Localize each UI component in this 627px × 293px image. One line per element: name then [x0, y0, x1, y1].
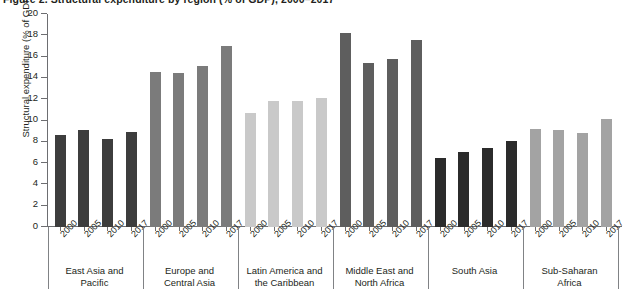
y-axis-tick-label: 4: [33, 177, 38, 189]
y-axis-tick-label: 6: [33, 156, 38, 168]
bar: [482, 148, 493, 227]
plot-area: 02468101214161820: [47, 14, 622, 227]
y-axis-tick: 10: [41, 120, 47, 121]
y-axis-line: [47, 14, 48, 227]
y-axis-tick-label: 8: [33, 134, 38, 146]
y-axis-tick: 14: [41, 77, 47, 78]
y-axis-tick: 18: [41, 34, 47, 35]
bar: [458, 152, 469, 227]
bar: [387, 59, 398, 227]
bar: [78, 130, 89, 227]
group-caption: Europe and Central Asia: [142, 265, 237, 288]
y-axis-tick-label: 0: [33, 220, 38, 232]
y-axis-tick: 12: [41, 98, 47, 99]
y-axis-tick-label: 18: [27, 28, 38, 40]
group-caption: South Asia: [427, 265, 522, 277]
bar: [150, 72, 161, 227]
bar: [221, 46, 232, 227]
y-axis-tick: 8: [41, 141, 47, 142]
group-caption: East Asia and Pacific: [47, 265, 142, 288]
bar: [506, 141, 517, 227]
group-caption: Middle East and North Africa: [332, 265, 427, 288]
group-separator: [428, 227, 429, 289]
bar: [577, 133, 588, 227]
y-axis-tick: 2: [41, 205, 47, 206]
chart-figure: Figure 2. Structural expenditure by regi…: [0, 0, 627, 293]
bar: [197, 66, 208, 227]
bar: [173, 73, 184, 227]
y-axis-tick-label: 10: [27, 113, 38, 125]
bar: [245, 113, 256, 227]
bar: [363, 63, 374, 227]
y-axis-tick-label: 2: [33, 198, 38, 210]
group-separator: [618, 227, 619, 289]
bar: [530, 129, 541, 227]
bar: [411, 40, 422, 227]
bar: [435, 158, 446, 227]
y-axis-tick: 6: [41, 162, 47, 163]
bar: [55, 135, 66, 227]
bar: [292, 101, 303, 227]
y-axis-tick: 4: [41, 183, 47, 184]
y-axis-tick: 0: [41, 226, 47, 227]
bar: [601, 119, 612, 227]
y-axis-tick: 16: [41, 56, 47, 57]
bar: [316, 98, 327, 227]
y-axis-title: Structural expenditure (% of GDP): [20, 0, 31, 171]
y-axis-tick-label: 20: [27, 7, 38, 19]
figure-title-text: Figure 2. Structural expenditure by regi…: [0, 0, 627, 5]
bar: [553, 130, 564, 227]
group-caption: Latin America and the Caribbean: [237, 265, 332, 288]
y-axis-tick-label: 12: [27, 92, 38, 104]
group-caption: Sub-Saharan Africa: [522, 265, 617, 288]
y-axis-tick-label: 14: [27, 70, 38, 82]
y-axis-tick-label: 16: [27, 49, 38, 61]
bar: [340, 33, 351, 227]
bar: [102, 139, 113, 227]
bar: [268, 101, 279, 227]
bar: [126, 132, 137, 227]
y-axis-tick: 20: [41, 13, 47, 14]
figure-title-clipped: Figure 2. Structural expenditure by regi…: [0, 0, 627, 5]
